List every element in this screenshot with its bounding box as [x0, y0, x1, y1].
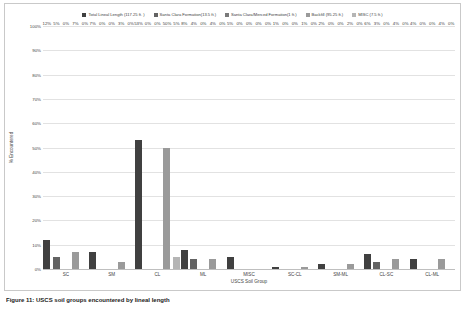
y-tick-label: 60% [32, 121, 41, 126]
bar[interactable]: 5% [227, 257, 234, 269]
legend-swatch-icon [225, 13, 229, 17]
bar-value-label: 0% [246, 21, 252, 26]
y-tick-label: 50% [32, 145, 41, 150]
y-tick-label: 100% [30, 24, 41, 29]
bar-value-label: 4% [210, 21, 216, 26]
bar-value-label: 0% [337, 21, 343, 26]
bar-value-label: 1% [273, 21, 279, 26]
bar-slot: 0% [81, 26, 88, 269]
bar[interactable]: 50% [163, 148, 170, 270]
bar-slot: 2% [318, 26, 325, 269]
bar[interactable]: 6% [364, 254, 371, 269]
bar-slot: 5% [53, 26, 60, 269]
bar-slot: 3% [118, 26, 125, 269]
legend-item[interactable]: Backfill (95.25 ft.) [306, 12, 344, 17]
bar-group: 12%5%0%7%0% [43, 26, 89, 269]
bar[interactable]: 8% [181, 250, 188, 269]
bar[interactable]: 4% [209, 259, 216, 269]
bar[interactable]: 12% [43, 240, 50, 269]
bar[interactable]: 7% [72, 252, 79, 269]
bar-value-label: 0% [265, 21, 271, 26]
bar[interactable]: 5% [173, 257, 180, 269]
bar-value-label: 4% [410, 21, 416, 26]
legend-swatch-icon [306, 13, 310, 17]
y-tick-label: 30% [32, 194, 41, 199]
bar-group: 5%0%0%0%0% [226, 26, 272, 269]
legend-swatch-icon [352, 13, 356, 17]
bar-slot: 7% [72, 26, 79, 269]
bar-value-label: 2% [347, 21, 353, 26]
bar-value-label: 0% [328, 21, 334, 26]
bar-slot: 0% [255, 26, 262, 269]
bar-value-label: 0% [99, 21, 105, 26]
y-tick-label: 80% [32, 72, 41, 77]
bar-value-label: 4% [439, 21, 445, 26]
bar[interactable]: 3% [373, 262, 380, 269]
bar-value-label: 50% [163, 21, 172, 26]
legend-swatch-icon [82, 13, 86, 17]
bar[interactable]: 5% [53, 257, 60, 269]
bar[interactable]: 4% [438, 259, 445, 269]
bar[interactable]: 3% [118, 262, 125, 269]
bar-value-label: 0% [154, 21, 160, 26]
legend-item[interactable]: MISC (7.5 ft.) [352, 12, 382, 17]
bar-value-label: 0% [448, 21, 454, 26]
bar-slot: 4% [392, 26, 399, 269]
bar[interactable]: 2% [347, 264, 354, 269]
bar-groups: 12%5%0%7%0%7%0%0%3%0%53%0%0%50%5%8%4%0%4… [43, 26, 455, 269]
bar-slot: 0% [246, 26, 253, 269]
legend-item[interactable]: Santa Clara Formation(13.5 ft.) [154, 12, 216, 17]
y-tick-label: 10% [32, 242, 41, 247]
y-tick-label: 20% [32, 218, 41, 223]
bar-slot: 0% [200, 26, 207, 269]
bar-value-label: 0% [356, 21, 362, 26]
bar-slot: 0% [448, 26, 455, 269]
bar-value-label: 53% [134, 21, 143, 26]
bar-value-label: 4% [191, 21, 197, 26]
bar-group: 7%0%0%3%0% [89, 26, 135, 269]
bar-value-label: 3% [118, 21, 124, 26]
bar-value-label: 0% [236, 21, 242, 26]
bar[interactable]: 4% [410, 259, 417, 269]
bar-slot: 0% [383, 26, 390, 269]
chart-container: Total Lineal Length (117.25 ft. )Santa C… [4, 3, 461, 291]
bar-slot: 4% [209, 26, 216, 269]
bar-slot: 0% [265, 26, 272, 269]
bar-value-label: 12% [43, 21, 52, 26]
legend-label: Santa Clara/Merced Formation(1 ft.) [231, 12, 297, 17]
bar-value-label: 0% [145, 21, 151, 26]
bar-slot: 12% [43, 26, 50, 269]
bar-slot: 0% [291, 26, 298, 269]
bar[interactable]: 1% [301, 267, 308, 269]
bar[interactable]: 4% [190, 259, 197, 269]
bar-slot: 0% [99, 26, 106, 269]
bar-value-label: 5% [53, 21, 59, 26]
bar[interactable]: 53% [135, 140, 142, 269]
bar-slot: 0% [219, 26, 226, 269]
bar[interactable]: 7% [89, 252, 96, 269]
bar-slot: 5% [173, 26, 180, 269]
bar[interactable]: 2% [318, 264, 325, 269]
legend-item[interactable]: Total Lineal Length (117.25 ft. ) [82, 12, 144, 17]
legend-item[interactable]: Santa Clara/Merced Formation(1 ft.) [225, 12, 297, 17]
bar-value-label: 0% [109, 21, 115, 26]
bar-value-label: 0% [282, 21, 288, 26]
bar[interactable]: 1% [272, 267, 279, 269]
bar-value-label: 0% [255, 21, 261, 26]
bar-value-label: 3% [374, 21, 380, 26]
bar[interactable]: 4% [392, 259, 399, 269]
bar-group: 53%0%0%50%5% [135, 26, 181, 269]
bar-value-label: 1% [301, 21, 307, 26]
bar-slot: 8% [181, 26, 188, 269]
figure-caption: Figure 11: USCS soil groups encountered … [6, 296, 461, 305]
bar-slot: 0% [419, 26, 426, 269]
bar-value-label: 8% [181, 21, 187, 26]
bar-value-label: 0% [219, 21, 225, 26]
bar-slot: 50% [163, 26, 170, 269]
legend-label: MISC (7.5 ft.) [358, 12, 382, 17]
bar-slot: 4% [410, 26, 417, 269]
bar-slot: 0% [62, 26, 69, 269]
x-axis-title: USCS Soil Group [43, 279, 455, 284]
legend-label: Backfill (95.25 ft.) [312, 12, 344, 17]
bar-slot: 4% [438, 26, 445, 269]
